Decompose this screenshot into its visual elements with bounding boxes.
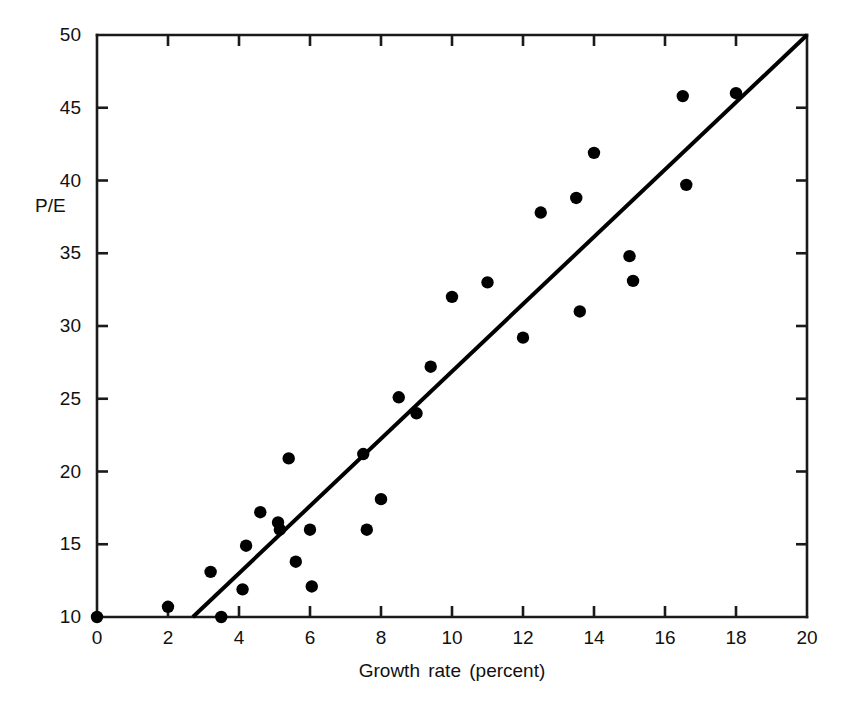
data-point (240, 540, 252, 552)
data-point (162, 601, 174, 613)
y-tick-label: 25 (25, 388, 81, 410)
data-point (290, 556, 302, 568)
x-tick-label: 18 (725, 627, 746, 649)
data-point (574, 305, 586, 317)
data-point (730, 87, 742, 99)
y-tick-label: 20 (25, 461, 81, 483)
data-point (446, 291, 458, 303)
data-point (517, 331, 529, 343)
x-tick-label: 20 (796, 627, 817, 649)
y-tick-label: 40 (25, 170, 81, 192)
x-tick-label: 2 (163, 627, 174, 649)
data-point (677, 90, 689, 102)
x-tick-label: 6 (305, 627, 316, 649)
plot-canvas (0, 0, 855, 702)
data-points (91, 87, 742, 623)
data-point (91, 611, 103, 623)
axis-frame (97, 35, 807, 617)
data-point (627, 275, 639, 287)
x-tick-label: 8 (376, 627, 387, 649)
y-tick-label: 30 (25, 315, 81, 337)
x-tick-label: 14 (583, 627, 604, 649)
data-point (375, 493, 387, 505)
data-point (204, 566, 216, 578)
data-point (283, 452, 295, 464)
data-point (361, 524, 373, 536)
data-point (306, 580, 318, 592)
x-tick-label: 0 (92, 627, 103, 649)
data-point (274, 524, 286, 536)
data-point (588, 147, 600, 159)
data-point (570, 192, 582, 204)
data-point (254, 506, 266, 518)
data-point (623, 250, 635, 262)
y-axis-title: P/E (35, 195, 66, 217)
y-tick-label: 35 (25, 242, 81, 264)
y-tick-label: 10 (25, 606, 81, 628)
tick-marks (97, 35, 807, 617)
scatter-plot-figure: 101520253035404550 02468101214161820 P/E… (0, 0, 855, 702)
x-tick-label: 4 (234, 627, 245, 649)
data-point (215, 611, 227, 623)
data-point (393, 391, 405, 403)
x-tick-label: 10 (441, 627, 462, 649)
y-tick-label: 50 (25, 24, 81, 46)
y-tick-label: 15 (25, 533, 81, 555)
data-point (304, 524, 316, 536)
data-point (236, 583, 248, 595)
data-point (481, 276, 493, 288)
x-axis-title: Growth rate (percent) (359, 660, 546, 682)
data-point (410, 407, 422, 419)
data-point (425, 361, 437, 373)
x-tick-label: 16 (654, 627, 675, 649)
data-point (357, 448, 369, 460)
y-tick-label: 45 (25, 97, 81, 119)
data-point (535, 206, 547, 218)
x-tick-label: 12 (512, 627, 533, 649)
data-point (680, 179, 692, 191)
